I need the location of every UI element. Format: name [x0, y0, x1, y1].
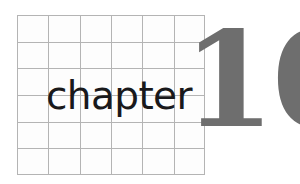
chapter-label: chapter [46, 74, 196, 118]
chapter-number: 10 [183, 18, 300, 144]
chapter-opener-page: chapter 10 [0, 0, 300, 184]
